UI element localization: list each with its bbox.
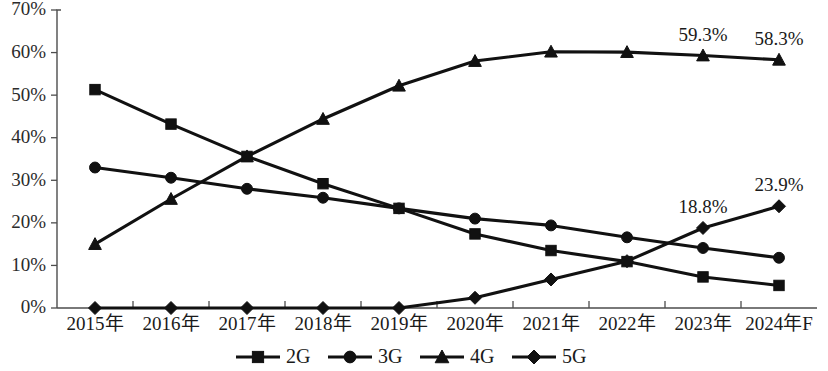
data-point-diamond xyxy=(469,291,482,304)
data-point-circle xyxy=(166,172,177,183)
legend-label-3g: 3G xyxy=(378,345,402,367)
chart-legend: 2G3G4G5G xyxy=(236,345,586,367)
x-axis-tick-label: 2015年 xyxy=(67,313,124,334)
y-axis: 0%10%20%30%40%50%60%70% xyxy=(11,0,61,317)
data-point-diamond xyxy=(545,273,558,286)
y-axis-tick-label: 0% xyxy=(21,296,47,317)
data-point-diamond xyxy=(773,200,786,213)
y-axis-tick-label: 30% xyxy=(11,169,46,190)
data-point-diamond xyxy=(697,221,710,234)
x-axis-tick-label: 2022年 xyxy=(599,313,656,334)
x-axis-tick-label: 2018年 xyxy=(295,313,352,334)
data-label-4g-2024年F: 58.3% xyxy=(754,28,803,49)
legend-label-4g: 4G xyxy=(470,345,494,367)
data-label-5g-2023年: 18.8% xyxy=(678,196,727,217)
data-point-circle xyxy=(90,162,101,173)
y-axis-tick-label: 20% xyxy=(11,211,46,232)
data-point-diamond xyxy=(527,350,541,364)
legend-item-5g[interactable]: 5G xyxy=(512,345,586,367)
y-axis-tick-label: 40% xyxy=(11,126,46,147)
data-point-triangle xyxy=(89,238,102,250)
y-axis-tick-label: 60% xyxy=(11,41,46,62)
series-line-4g xyxy=(95,52,779,244)
data-label-5g-2024年F: 23.9% xyxy=(754,174,803,195)
series-4g xyxy=(89,45,786,249)
data-point-circle xyxy=(546,220,557,231)
data-point-triangle xyxy=(165,193,178,205)
data-point-square xyxy=(90,84,100,94)
data-point-square xyxy=(546,245,556,255)
data-point-circle xyxy=(470,213,481,224)
data-point-circle xyxy=(774,252,785,263)
data-point-circle xyxy=(622,232,633,243)
series-line-2g xyxy=(95,90,779,286)
data-point-square xyxy=(318,178,328,188)
data-point-circle xyxy=(698,243,709,254)
legend-item-3g[interactable]: 3G xyxy=(328,345,402,367)
data-series-group xyxy=(89,45,786,314)
x-axis-tick-label: 2021年 xyxy=(523,313,580,334)
series-line-3g xyxy=(95,168,779,258)
x-axis-tick-label: 2024年F xyxy=(745,313,813,334)
legend-item-2g[interactable]: 2G xyxy=(236,345,310,367)
line-chart: 0%10%20%30%40%50%60%70% 2015年2016年2017年2… xyxy=(0,0,828,371)
data-point-circle xyxy=(394,203,405,214)
y-axis-tick-label: 50% xyxy=(11,84,46,105)
x-axis-tick-label: 2016年 xyxy=(143,313,200,334)
legend-item-4g[interactable]: 4G xyxy=(420,345,494,367)
x-axis-tick-label: 2017年 xyxy=(219,313,276,334)
x-axis-tick-label: 2020年 xyxy=(447,313,504,334)
chart-canvas: 0%10%20%30%40%50%60%70% 2015年2016年2017年2… xyxy=(0,0,828,371)
data-point-square xyxy=(774,280,784,290)
y-axis-tick-label: 10% xyxy=(11,254,46,275)
data-point-square xyxy=(166,119,176,129)
y-axis-line xyxy=(57,10,61,308)
data-point-square xyxy=(698,272,708,282)
data-point-circle xyxy=(344,351,356,363)
x-axis-tick-label: 2023年 xyxy=(675,313,732,334)
data-point-square xyxy=(252,351,263,362)
data-label-4g-2023年: 59.3% xyxy=(678,24,727,45)
data-point-circle xyxy=(318,192,329,203)
legend-label-5g: 5G xyxy=(562,345,586,367)
data-point-square xyxy=(470,229,480,239)
y-axis-tick-label: 70% xyxy=(11,0,46,19)
x-axis-tick-label: 2019年 xyxy=(371,313,428,334)
data-point-circle xyxy=(242,183,253,194)
legend-label-2g: 2G xyxy=(286,345,310,367)
data-label-group: 59.3%58.3%18.8%23.9% xyxy=(678,24,803,217)
